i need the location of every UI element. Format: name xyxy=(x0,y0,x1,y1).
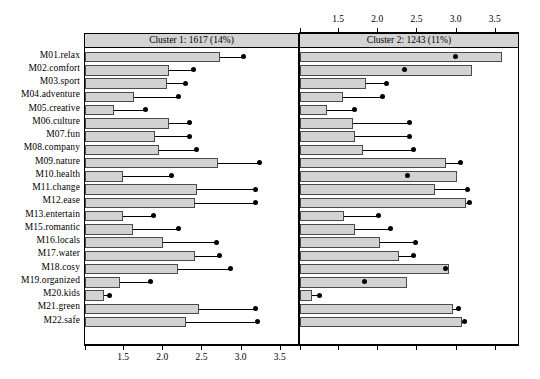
bar-m18-cosy xyxy=(300,264,449,274)
bar-row xyxy=(85,276,298,289)
connector-line xyxy=(197,189,256,190)
connector-line xyxy=(159,150,196,151)
bar-row xyxy=(300,143,513,156)
y-axis-label-m17-water: M17.water xyxy=(38,249,80,259)
y-axis-label-m20-kids: M20.kids xyxy=(43,289,80,299)
marker-dot-m21-green xyxy=(253,306,258,311)
bar-m20-kids xyxy=(85,290,104,300)
bar-m02-comfort xyxy=(85,65,169,75)
marker-dot-m01-relax xyxy=(453,54,458,59)
axis-tick xyxy=(338,28,339,32)
marker-dot-m08-company xyxy=(194,147,199,152)
bar-row xyxy=(300,263,513,276)
marker-dot-m03-sport xyxy=(183,81,188,86)
bar-row xyxy=(85,289,298,302)
axis-tick xyxy=(416,346,417,350)
connector-line xyxy=(355,229,390,230)
connector-line xyxy=(123,176,172,177)
bar-m15-romantic xyxy=(85,224,133,234)
bar-row xyxy=(300,223,513,236)
y-axis-label-m19-organized: M19.organized xyxy=(21,276,80,286)
axis-tick-origin xyxy=(300,28,301,32)
bar-row xyxy=(300,77,513,90)
bar-row xyxy=(300,183,513,196)
bar-row xyxy=(85,157,298,170)
bar-m08-company xyxy=(85,145,159,155)
bar-m13-entertain xyxy=(300,211,344,221)
y-axis-label-m04-adventure: M04.adventure xyxy=(21,90,80,100)
marker-dot-m16-locals xyxy=(214,240,219,245)
axis-tick-label: 1.5 xyxy=(332,14,344,24)
connector-line xyxy=(155,136,189,137)
marker-dot-m11-change xyxy=(253,187,258,192)
marker-dot-m17-water xyxy=(411,253,416,258)
marker-dot-m13-entertain xyxy=(151,213,156,218)
bar-m22-safe xyxy=(85,317,186,327)
bar-m22-safe xyxy=(300,317,462,327)
bar-row xyxy=(300,276,513,289)
connector-line xyxy=(186,322,257,323)
axis-tick xyxy=(201,346,202,350)
bar-m20-kids xyxy=(300,290,312,300)
panel-cluster-1: Cluster 1: 1617 (14%) xyxy=(84,33,299,345)
bar-m17-water xyxy=(300,251,399,261)
bar-m16-locals xyxy=(85,237,163,247)
bar-m10-health xyxy=(300,171,457,181)
bar-row xyxy=(85,236,298,249)
axis-line xyxy=(299,345,519,346)
y-axis-label-m06-culture: M06.culture xyxy=(32,117,80,127)
y-axis-label-m01-relax: M01.relax xyxy=(40,51,80,61)
connector-line xyxy=(355,136,410,137)
y-axis-label-m18-cosy: M18.cosy xyxy=(41,263,80,273)
y-axis-label-m08-company: M08.company xyxy=(24,143,80,153)
axis-tick xyxy=(123,346,124,350)
axis-tick xyxy=(162,346,163,350)
axis-tick-label: 2.0 xyxy=(371,14,383,24)
y-axis-label-m13-entertain: M13.entertain xyxy=(25,210,80,220)
bar-row xyxy=(85,183,298,196)
bar-m19-organized xyxy=(300,277,407,287)
axis-tick-label: 2.0 xyxy=(156,352,168,362)
bar-row xyxy=(85,263,298,276)
marker-dot-m09-nature xyxy=(458,160,463,165)
marker-dot-m07-fun xyxy=(407,134,412,139)
bar-m06-culture xyxy=(300,118,353,128)
connector-line xyxy=(435,189,467,190)
axis-tick xyxy=(338,346,339,350)
connector-line xyxy=(363,150,414,151)
bar-m11-change xyxy=(85,184,197,194)
bar-m13-entertain xyxy=(85,211,123,221)
bar-m21-green xyxy=(85,304,199,314)
panel-header-cluster-2: Cluster 2: 1243 (11%) xyxy=(300,34,518,48)
bar-row xyxy=(300,117,513,130)
bar-m05-creative xyxy=(85,105,114,115)
marker-dot-m11-change xyxy=(465,187,470,192)
axis-tick-label: 2.5 xyxy=(411,14,423,24)
marker-dot-m19-organized xyxy=(148,279,153,284)
bar-m04-adventure xyxy=(300,92,343,102)
marker-dot-m16-locals xyxy=(413,240,418,245)
marker-dot-m22-safe xyxy=(462,319,467,324)
connector-line xyxy=(220,57,243,58)
marker-dot-m20-kids xyxy=(317,293,322,298)
connector-line xyxy=(344,216,378,217)
bar-row xyxy=(300,210,513,223)
connector-line xyxy=(195,256,220,257)
y-axis-label-m21-green: M21.green xyxy=(38,302,80,312)
y-axis-label-m11-change: M11.change xyxy=(32,183,80,193)
y-axis-label-m12-ease: M12.ease xyxy=(43,196,80,206)
axis-tick-label: 3.5 xyxy=(489,14,501,24)
axis-tick xyxy=(495,28,496,32)
bar-m12-ease xyxy=(300,198,466,208)
connector-line xyxy=(380,242,416,243)
bar-row xyxy=(300,130,513,143)
y-axis-label-m07-fun: M07.fun xyxy=(46,130,80,140)
bar-row xyxy=(85,64,298,77)
marker-dot-m05-creative xyxy=(143,107,148,112)
marker-dot-m09-nature xyxy=(257,160,262,165)
y-axis-label-m16-locals: M16.locals xyxy=(37,236,80,246)
bar-m01-relax xyxy=(300,52,502,62)
bar-row xyxy=(85,170,298,183)
marker-dot-m18-cosy xyxy=(228,266,233,271)
axis-tick xyxy=(241,346,242,350)
